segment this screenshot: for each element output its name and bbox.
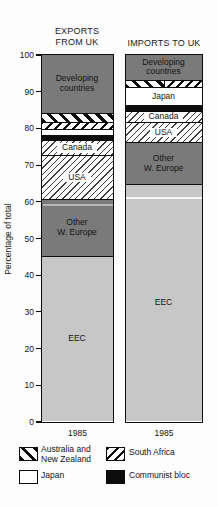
segment-divider	[42, 140, 113, 141]
chart-title-exports: EXPORTS FROM UK	[40, 26, 114, 48]
segment-other-w-europe-exports: Other W. Europe	[42, 199, 113, 256]
segment-label-eec: EEC	[68, 334, 85, 344]
legend-label-south-africa: South Africa	[129, 448, 209, 458]
legend-swatch-communist-bloc	[106, 470, 125, 484]
scan-artifact-line	[43, 204, 113, 206]
segment-divider	[42, 129, 113, 130]
segment-divider	[42, 155, 113, 156]
legend-swatch-australia-new-zealand	[19, 447, 38, 461]
segment-divider	[126, 80, 202, 81]
segment-divider	[126, 142, 202, 143]
segment-divider	[42, 199, 113, 200]
y-tick-label-0: 0	[10, 417, 34, 427]
segment-label-canada: Canada	[144, 112, 184, 122]
segment-divider	[126, 111, 202, 112]
segment-divider	[42, 122, 113, 123]
segment-developing-countries-imports: Developing countries	[126, 55, 202, 81]
segment-canada-imports: Canada	[126, 111, 202, 122]
y-tick-label-50: 50	[10, 234, 34, 244]
segment-divider	[126, 105, 202, 106]
segment-divider	[126, 184, 202, 185]
segment-divider	[126, 122, 202, 123]
segment-japan-imports: Japan	[126, 88, 202, 106]
x-tick-label-imports: 1985	[116, 428, 212, 438]
y-tick-label-70: 70	[10, 160, 34, 170]
y-tick-label-100: 100	[10, 50, 34, 60]
figure-canvas: EXPORTS FROM UK IMPORTS TO UK Percentage…	[0, 0, 218, 507]
bar-exports: Developing countriesCanadaUSAOther W. Eu…	[41, 54, 114, 423]
y-tick-label-60: 60	[10, 197, 34, 207]
legend-swatch-south-africa	[106, 447, 125, 461]
segment-label-developing-countries: Developing countries	[56, 74, 99, 93]
segment-label-developing-countries: Developing countries	[142, 58, 185, 77]
segment-usa-imports: USA	[126, 122, 202, 142]
segment-divider	[42, 113, 113, 114]
segment-canada-exports: Canada	[42, 141, 113, 156]
segment-label-japan: Japan	[152, 92, 175, 102]
segment-usa-exports: USA	[42, 155, 113, 199]
segment-eec-exports: EEC	[42, 256, 113, 421]
y-tick-label-80: 80	[10, 123, 34, 133]
scan-artifact-line	[126, 197, 202, 199]
segment-developing-countries-exports: Developing countries	[42, 55, 113, 114]
legend-label-communist-bloc: Communist bloc	[129, 471, 214, 481]
chart-title-imports: IMPORTS TO UK	[114, 38, 214, 49]
segment-label-usa: USA	[63, 173, 90, 183]
segment-divider	[42, 256, 113, 257]
segment-label-other-w-europe: Other W. Europe	[144, 154, 184, 173]
segment-label-usa: USA	[150, 128, 177, 138]
segment-eec-imports: EEC	[126, 185, 202, 422]
y-tick-label-10: 10	[10, 380, 34, 390]
x-tick-label-exports: 1985	[32, 428, 123, 438]
segment-other-w-europe-imports: Other W. Europe	[126, 143, 202, 185]
segment-label-other-w-europe: Other W. Europe	[57, 218, 97, 237]
y-tick-label-20: 20	[10, 344, 34, 354]
y-tick-label-90: 90	[10, 87, 34, 97]
legend-swatch-japan	[19, 470, 38, 484]
segment-divider	[42, 135, 113, 136]
segment-divider	[126, 87, 202, 88]
legend-label-australia-new-zealand: Australia and New Zealand	[41, 445, 105, 464]
y-tick-label-40: 40	[10, 270, 34, 280]
segment-label-eec: EEC	[155, 298, 172, 308]
legend-label-japan: Japan	[41, 471, 101, 481]
y-tick-label-30: 30	[10, 307, 34, 317]
bar-imports: Developing countriesJapanCanadaUSAOther …	[125, 54, 203, 423]
segment-label-canada: Canada	[57, 143, 97, 153]
